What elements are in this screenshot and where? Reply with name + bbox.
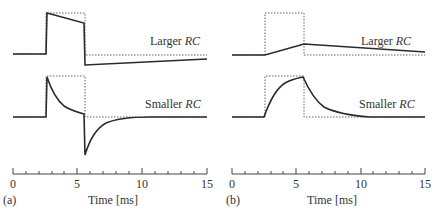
panel-a-tick-5: 5 xyxy=(74,177,80,191)
panel-a: Larger RC Smaller RC 0 5 10 1 xyxy=(3,13,213,207)
panel-b-xlabel: Time [ms] xyxy=(307,193,357,207)
panel-a-xlabel: Time [ms] xyxy=(88,193,138,207)
panel-a-x-axis xyxy=(13,168,207,174)
rc-response-figure: Larger RC Smaller RC 0 5 10 1 xyxy=(0,0,439,210)
panel-a-tick-0: 0 xyxy=(10,177,16,191)
panel-b-smaller-rc-label: Smaller RC xyxy=(359,97,416,111)
panel-b-tick-15: 15 xyxy=(419,177,431,191)
panel-a-tick-10: 10 xyxy=(136,177,148,191)
panel-b-tick-10: 10 xyxy=(355,177,367,191)
panel-b-tick-5: 5 xyxy=(293,177,299,191)
panel-a-smaller-rc-trace xyxy=(13,77,207,155)
panel-a-larger-rc-label: Larger RC xyxy=(150,34,201,48)
panel-a-tick-15: 15 xyxy=(201,177,213,191)
panel-b-tag: (b) xyxy=(226,193,240,207)
panel-b-x-axis xyxy=(232,168,425,174)
panel-b-larger-rc-label: Larger RC xyxy=(361,34,412,48)
panel-a-tag: (a) xyxy=(3,193,16,207)
panel-a-smaller-rc-label: Smaller RC xyxy=(145,97,202,111)
panel-b: Larger RC Smaller RC 0 5 10 1 xyxy=(226,13,431,207)
panel-b-tick-0: 0 xyxy=(229,177,235,191)
